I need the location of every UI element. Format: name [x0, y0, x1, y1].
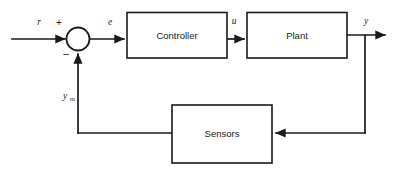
diagram-canvas: Controller Plant Sensors r e u y y m + –	[0, 0, 399, 170]
signal-label-reference: r	[37, 17, 41, 27]
summing-junction	[67, 28, 90, 51]
summer-plus-sign: +	[56, 17, 62, 28]
signal-label-error: e	[108, 17, 112, 27]
control-block-diagram: Controller Plant Sensors r e u y y m + –	[0, 0, 399, 170]
signal-label-control: u	[232, 16, 237, 26]
block-label-controller: Controller	[156, 30, 197, 41]
signal-label-output: y	[363, 16, 369, 26]
block-label-plant: Plant	[286, 30, 308, 41]
block-label-sensors: Sensors	[205, 128, 240, 139]
signal-label-measured-subscript: m	[70, 95, 75, 102]
signal-label-measured: y	[62, 91, 68, 101]
summer-minus-sign: –	[63, 48, 69, 59]
